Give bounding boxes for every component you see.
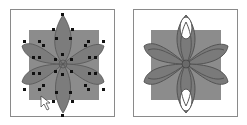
center-point [182,60,190,68]
result-canvas-panel[interactable] [133,9,238,117]
flower-shape-result[interactable] [134,10,239,118]
flower-shape-with-anchors[interactable] [11,10,116,118]
editing-canvas-panel[interactable] [10,9,115,117]
